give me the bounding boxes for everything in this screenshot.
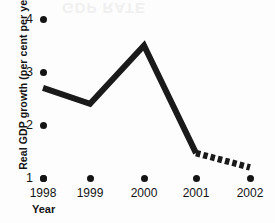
plot-area — [0, 0, 275, 223]
chart-container: GDP RATE Real GDP growth (per cent per y… — [0, 0, 275, 223]
data-line-actual — [43, 46, 196, 154]
x-axis-title: Year — [32, 203, 55, 215]
data-line-forecast-dashed — [196, 153, 250, 167]
